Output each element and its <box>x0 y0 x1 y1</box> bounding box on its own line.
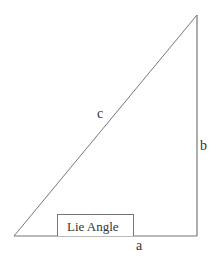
vertical-side-label: b <box>200 139 207 153</box>
horizontal-side-label: a <box>136 239 142 253</box>
lie-angle-box: Lie Angle <box>57 214 134 236</box>
hypotenuse-label: c <box>97 107 103 121</box>
hypotenuse-line <box>14 15 197 236</box>
lie-angle-label: Lie Angle <box>67 219 119 235</box>
triangle-diagram: c b a Lie Angle <box>0 0 220 261</box>
